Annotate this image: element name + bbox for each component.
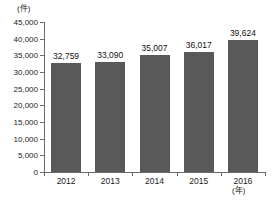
x-axis-tick <box>221 172 222 176</box>
y-axis-tick-label: 10,000 <box>14 134 38 143</box>
bar-value-label: 33,090 <box>97 50 123 60</box>
y-axis-tick <box>40 122 44 123</box>
y-axis-tick-label: 5,000 <box>18 151 38 160</box>
y-axis-tick-label: 25,000 <box>14 84 38 93</box>
y-axis-tick <box>40 39 44 40</box>
y-axis-tick <box>40 55 44 56</box>
bar-value-label: 32,759 <box>53 51 79 61</box>
y-axis-tick <box>40 22 44 23</box>
x-axis-category-label: 2015 <box>189 176 208 186</box>
y-axis-tick <box>40 105 44 106</box>
y-axis-tick-label: 35,000 <box>14 51 38 60</box>
x-axis-category-label: 2013 <box>101 176 120 186</box>
x-axis-category-label: 2014 <box>145 176 164 186</box>
y-axis-line <box>44 22 45 172</box>
bar: 36,017 <box>184 52 214 172</box>
y-axis-unit-label: (件) <box>17 4 30 14</box>
y-axis-tick <box>40 139 44 140</box>
y-axis-tick-label: 20,000 <box>14 101 38 110</box>
x-axis-tick <box>132 172 133 176</box>
x-axis-category-label: 2012 <box>57 176 76 186</box>
bar: 39,624 <box>228 40 258 172</box>
y-axis-tick-label: 15,000 <box>14 118 38 127</box>
y-axis-tick-label: 0 <box>34 168 38 177</box>
bar: 32,759 <box>51 63 81 172</box>
x-axis-tick <box>44 172 45 176</box>
x-axis-line <box>44 172 265 173</box>
y-axis-tick-label: 45,000 <box>14 18 38 27</box>
y-axis-tick <box>40 155 44 156</box>
y-axis-tick <box>40 89 44 90</box>
bar: 33,090 <box>95 62 125 172</box>
y-axis-tick <box>40 72 44 73</box>
x-axis-tick <box>177 172 178 176</box>
bar-value-label: 39,624 <box>230 28 256 38</box>
bar: 35,007 <box>140 55 170 172</box>
bar-chart: (件) 05,00010,00015,00020,00025,00030,000… <box>0 0 274 203</box>
bar-value-label: 35,007 <box>142 43 168 53</box>
y-axis-tick-label: 40,000 <box>14 34 38 43</box>
x-axis-unit-label: (年) <box>232 186 245 196</box>
x-axis-category-label: 2016 <box>233 176 252 186</box>
x-axis-tick <box>265 172 266 176</box>
plot-area: 05,00010,00015,00020,00025,00030,00035,0… <box>44 22 265 172</box>
bar-value-label: 36,017 <box>186 40 212 50</box>
y-axis-tick-label: 30,000 <box>14 68 38 77</box>
x-axis-tick <box>88 172 89 176</box>
